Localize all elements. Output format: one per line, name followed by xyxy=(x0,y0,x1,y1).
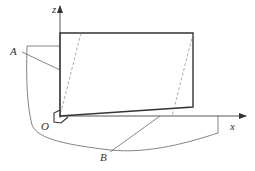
leader-line-b xyxy=(110,116,160,152)
z-axis-label: z xyxy=(51,3,57,15)
x-axis-label: x xyxy=(229,120,235,132)
dashed-line-left xyxy=(61,33,81,112)
technical-diagram: z x O A B xyxy=(0,0,255,171)
part-b-label: B xyxy=(100,151,107,163)
part-a-outline xyxy=(60,33,193,116)
dashed-line-right xyxy=(172,34,193,116)
outer-contour-b xyxy=(27,46,218,151)
part-a-label: A xyxy=(9,45,17,57)
leader-line-a xyxy=(22,52,60,70)
origin-label: O xyxy=(41,120,49,132)
